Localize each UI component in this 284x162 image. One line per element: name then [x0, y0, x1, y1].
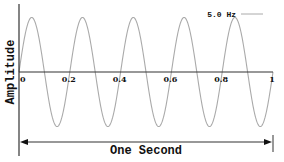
y-axis-label: Amplitude	[4, 40, 18, 105]
x-tick-label: 0.2	[62, 74, 76, 84]
one-second-annotation: One Second	[20, 135, 273, 158]
legend: 5.0 Hz	[207, 10, 263, 19]
x-tick-label: 1	[269, 74, 275, 84]
x-tick-label: 0.4	[113, 74, 127, 84]
legend-label: 5.0 Hz	[207, 10, 236, 19]
x-tick-label: 0	[20, 74, 26, 84]
x-tick-label: 0.8	[214, 74, 228, 84]
sine-wave-chart: 00.20.40.60.81 Amplitude 5.0 Hz One Seco…	[0, 0, 284, 162]
annotation-label: One Second	[110, 144, 182, 158]
x-tick-label: 0.6	[163, 74, 177, 84]
arrow-head-left	[20, 139, 28, 145]
arrow-head-right	[264, 139, 272, 145]
